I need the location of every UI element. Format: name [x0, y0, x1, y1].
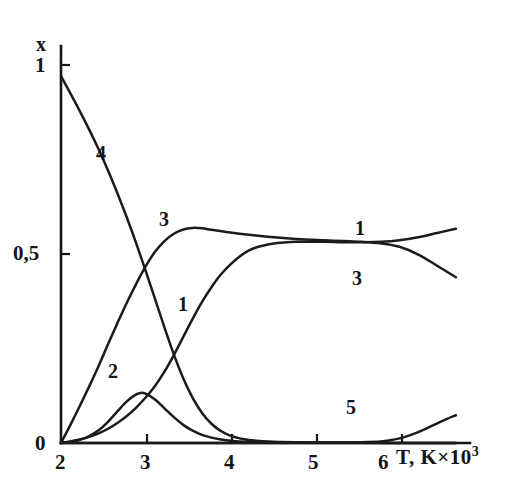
y-tick-label-0: 0 [35, 433, 46, 454]
curve-3 [61, 228, 456, 443]
x-axis-title-exponent: 3 [472, 444, 480, 459]
curve-label-4: 4 [96, 143, 106, 163]
x-tick-label-6: 6 [378, 452, 389, 473]
curve-1 [61, 229, 456, 443]
x-tick-label-2: 2 [55, 452, 66, 473]
plot-area [0, 0, 509, 494]
x-axis-title-main: T, K×10 [396, 445, 472, 469]
curve-label-1-middle: 1 [178, 294, 188, 314]
curve-label-2: 2 [108, 361, 118, 381]
curves-group [61, 76, 456, 443]
y-tick-label-0-5: 0,5 [13, 243, 39, 264]
curve-label-3-top: 3 [159, 209, 169, 229]
curve-label-1-right: 1 [355, 218, 365, 238]
curve-5 [61, 415, 456, 443]
curve-2 [61, 393, 456, 443]
y-tick-label-1: 1 [35, 55, 46, 76]
y-tick-marks [61, 65, 70, 254]
chart-figure: x T, K×103 1 0,5 0 2 3 4 5 6 4 3 1 2 1 3… [0, 0, 509, 494]
curve-4 [61, 76, 456, 443]
x-axis-title: T, K×103 [396, 447, 479, 468]
y-axis-title: x [36, 34, 46, 54]
x-tick-label-3: 3 [140, 452, 151, 473]
x-tick-label-5: 5 [308, 452, 319, 473]
curve-label-3-right: 3 [352, 268, 362, 288]
curve-label-5: 5 [346, 397, 356, 417]
x-tick-label-4: 4 [224, 452, 235, 473]
